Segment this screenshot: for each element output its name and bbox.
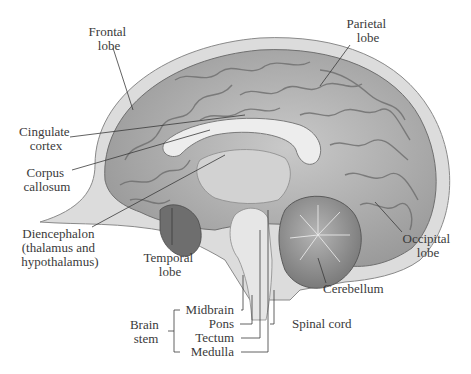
label-pons: Pons (209, 316, 234, 331)
label-diencephalon: Diencephalon (thalamus and hypothalamus) (21, 226, 98, 269)
label-temporal-lobe: Temporal lobe (144, 250, 197, 279)
label-spinal-cord: Spinal cord (292, 316, 352, 331)
label-midbrain: Midbrain (186, 302, 235, 317)
label-cingulate-cortex: Cingulate cortex (19, 124, 73, 153)
label-medulla: Medulla (191, 344, 235, 359)
label-parietal-lobe: Parietal lobe (347, 16, 390, 45)
label-cerebellum: Cerebellum (323, 281, 384, 296)
label-brain-stem: Brain stem (130, 317, 162, 346)
brain-diagram: Frontal lobe Parietal lobe Cingulate cor… (0, 0, 471, 374)
diencephalon (197, 150, 291, 204)
label-tectum: Tectum (195, 330, 234, 345)
label-corpus-callosum: Corpus callosum (24, 165, 71, 194)
label-frontal-lobe: Frontal lobe (89, 24, 130, 53)
